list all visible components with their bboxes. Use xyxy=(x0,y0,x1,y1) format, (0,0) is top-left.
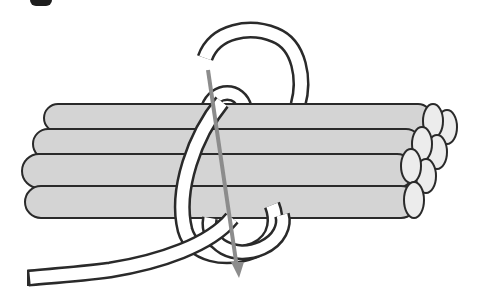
rope-top-loop xyxy=(205,30,301,108)
step-number-badge xyxy=(30,0,52,6)
knot-illustration: Knot tying step illustration xyxy=(0,0,478,302)
diagram-svg xyxy=(0,0,478,302)
